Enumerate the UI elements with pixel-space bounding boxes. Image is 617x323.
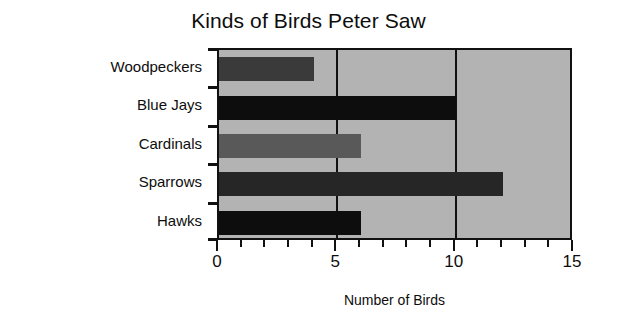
x-tick-label-0: 0 (197, 252, 237, 272)
x-tick-12 (500, 240, 502, 247)
chart-title: Kinds of Birds Peter Saw (0, 8, 617, 34)
y-tick-label-sparrows: Sparrows (139, 163, 202, 201)
x-tick-4 (311, 240, 313, 247)
bar-woodpeckers[interactable] (219, 57, 314, 81)
x-tick-3 (287, 240, 289, 247)
x-tick-label-5: 5 (315, 252, 355, 272)
x-tick-9 (429, 240, 431, 247)
y-tick-label-blue-jays: Blue Jays (137, 86, 202, 124)
y-axis-tick-labels: Woodpeckers Blue Jays Cardinals Sparrows… (60, 48, 208, 240)
x-tick-label-15: 15 (552, 252, 592, 272)
x-tick-2 (263, 240, 265, 247)
x-tick-0 (216, 240, 218, 251)
y-tick-2 (208, 125, 217, 128)
x-tick-label-10: 10 (434, 252, 474, 272)
x-tick-14 (547, 240, 549, 247)
bar-row-cardinals (219, 127, 570, 165)
bar-blue-jays[interactable] (219, 96, 456, 120)
bar-row-sparrows (219, 165, 570, 203)
x-tick-6 (358, 240, 360, 247)
bar-row-woodpeckers (219, 50, 570, 88)
x-tick-1 (240, 240, 242, 247)
y-tick-label-woodpeckers: Woodpeckers (111, 48, 202, 86)
x-tick-13 (524, 240, 526, 247)
bar-sparrows[interactable] (219, 172, 503, 196)
plot-area (217, 48, 572, 240)
x-axis-label: Number of Birds (217, 292, 572, 308)
bar-cardinals[interactable] (219, 134, 361, 158)
x-tick-10 (453, 240, 455, 251)
bar-chart: Kinds of Birds Peter Saw Kind of Bird Wo… (0, 0, 617, 323)
x-tick-7 (382, 240, 384, 247)
y-tick-4 (208, 202, 217, 205)
y-tick-0 (208, 48, 217, 51)
bar-row-blue-jays (219, 88, 570, 126)
y-tick-3 (208, 163, 217, 166)
x-tick-15 (571, 240, 573, 251)
x-tick-8 (405, 240, 407, 247)
bars-container (219, 50, 570, 238)
x-tick-5 (334, 240, 336, 251)
x-tick-11 (476, 240, 478, 247)
y-tick-label-cardinals: Cardinals (139, 125, 202, 163)
bar-hawks[interactable] (219, 211, 361, 235)
y-tick-1 (208, 86, 217, 89)
y-tick-label-hawks: Hawks (157, 202, 202, 240)
bar-row-hawks (219, 204, 570, 242)
